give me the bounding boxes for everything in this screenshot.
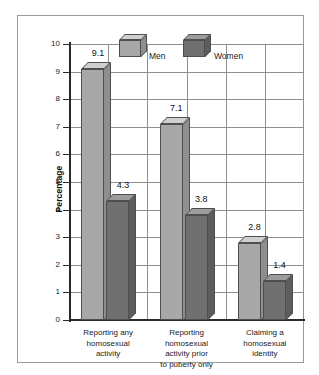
- bar-value-label: 3.8: [195, 195, 208, 204]
- y-axis-tick-label: 2: [56, 261, 60, 269]
- plot-right-border: [303, 44, 304, 320]
- gridline-vertical: [147, 44, 148, 320]
- legend-label: Men: [149, 52, 166, 61]
- legend-cube-front: [183, 40, 205, 57]
- y-axis-tick-label: 5: [56, 178, 60, 186]
- category-label-line: to puberty only: [139, 360, 235, 371]
- y-axis-tick-label: 10: [51, 40, 60, 48]
- category-label-line: identity: [217, 349, 313, 360]
- bar-front-face: [81, 69, 104, 320]
- bar-front-face: [238, 243, 261, 320]
- y-axis-line: [69, 42, 71, 322]
- bar-front-face: [185, 215, 208, 320]
- legend-cube-front: [119, 40, 141, 57]
- bar-side-face: [286, 274, 293, 320]
- bar-front-face: [106, 201, 129, 320]
- y-axis-tick-label: 6: [56, 150, 60, 158]
- bar-women: [185, 215, 208, 320]
- chart-figure: Percentage 1098765432109.17.12.84.33.81.…: [0, 0, 319, 375]
- legend-label: Women: [214, 52, 243, 61]
- y-axis-tick-label: 4: [56, 206, 60, 214]
- bar-value-label: 7.1: [170, 104, 183, 113]
- x-axis-category-label: Claiming ahomosexualidentity: [217, 328, 313, 360]
- bar-value-label: 9.1: [92, 49, 105, 58]
- category-label-line: homosexual: [217, 339, 313, 350]
- y-axis-tick-label: 1: [56, 288, 60, 296]
- legend-swatch-cube: [119, 40, 141, 57]
- category-label-line: Claiming a: [217, 328, 313, 339]
- bar-value-label: 1.4: [273, 261, 286, 270]
- bar-men: [238, 243, 261, 320]
- bar-value-label: 4.3: [117, 181, 130, 190]
- y-axis-tick-label: 7: [56, 123, 60, 131]
- y-axis-tick-label: 3: [56, 233, 60, 241]
- bar-women: [106, 201, 129, 320]
- bar-front-face: [160, 124, 183, 320]
- bar-front-face: [263, 281, 286, 320]
- bar-side-face: [208, 208, 215, 320]
- bar-men: [160, 124, 183, 320]
- bar-men: [81, 69, 104, 320]
- y-axis-tick-label: 9: [56, 68, 60, 76]
- chart-frame: Percentage 1098765432109.17.12.84.33.81.…: [17, 15, 304, 363]
- plot-area: 1098765432109.17.12.84.33.81.4: [69, 44, 304, 320]
- gridline-vertical: [226, 44, 227, 320]
- bar-women: [263, 281, 286, 320]
- y-axis-tick-label: 8: [56, 95, 60, 103]
- bar-value-label: 2.8: [248, 223, 261, 232]
- bar-side-face: [129, 194, 136, 320]
- legend-swatch-cube: [183, 40, 205, 57]
- y-axis-tick-label: 0: [56, 316, 60, 324]
